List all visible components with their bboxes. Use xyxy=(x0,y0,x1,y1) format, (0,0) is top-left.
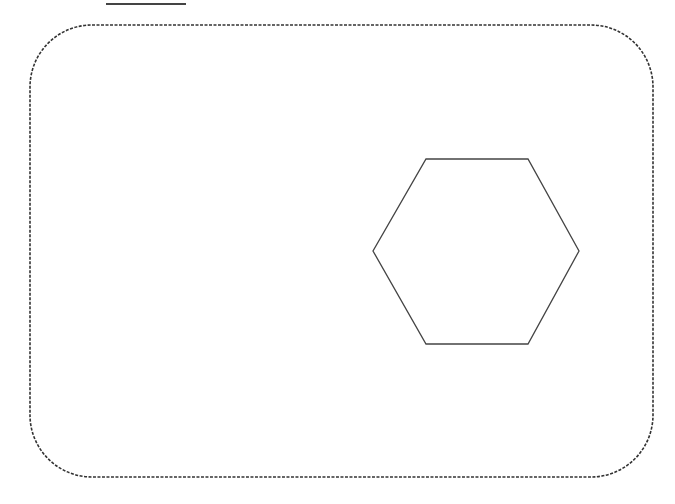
hexagon-shape xyxy=(373,159,579,344)
dashed-rounded-frame xyxy=(30,25,653,477)
diagram-canvas xyxy=(0,0,675,504)
